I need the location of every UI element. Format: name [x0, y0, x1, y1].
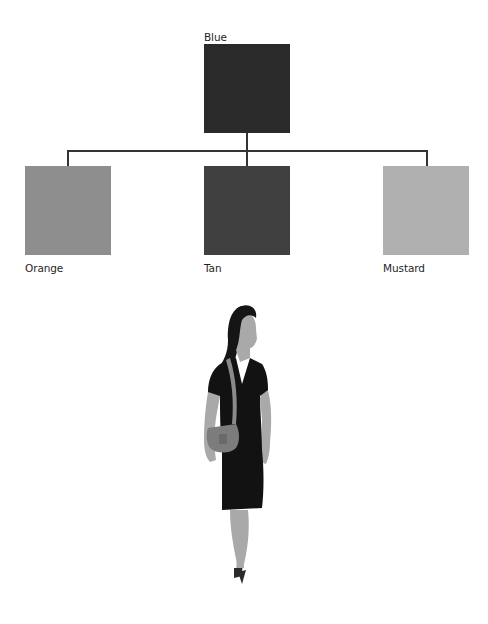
connector-vertical-root	[246, 133, 248, 151]
connector-drop-right	[426, 150, 428, 166]
root-node-label: Blue	[204, 31, 227, 43]
child-node-label-orange: Orange	[25, 262, 63, 274]
child-node-label-tan: Tan	[204, 262, 221, 274]
root-node-blue	[204, 44, 290, 133]
connector-drop-left	[67, 150, 69, 166]
child-node-orange	[25, 166, 111, 255]
woman-illustration	[190, 300, 300, 590]
child-node-label-mustard: Mustard	[383, 262, 425, 274]
child-node-mustard	[383, 166, 469, 255]
connector-drop-center	[246, 150, 248, 166]
child-node-tan	[204, 166, 290, 255]
